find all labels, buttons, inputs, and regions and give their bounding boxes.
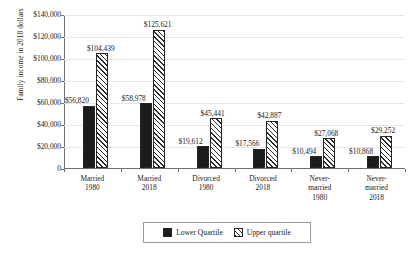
x-axis-tick: [348, 169, 349, 172]
y-axis-tick: [61, 125, 64, 126]
y-axis-label: $20,000: [0, 143, 61, 151]
bar-lower-quartile: [310, 156, 322, 168]
chart-legend: Lower Quartile Upper quartile: [143, 222, 311, 243]
legend-label-lower-quartile: Lower Quartile: [176, 228, 223, 237]
y-axis-label: $80,000: [0, 77, 61, 85]
bar-lower-quartile: [253, 149, 265, 168]
bar-value-label-upper: $45,441: [201, 110, 225, 118]
y-axis-tick: [61, 15, 64, 16]
x-axis-tick: [121, 169, 122, 172]
bar-value-label-upper: $104,439: [87, 45, 115, 53]
bar-group: [83, 14, 108, 168]
y-axis-label: $40,000: [0, 121, 61, 129]
y-axis-tick: [61, 81, 64, 82]
y-axis-label: $120,000: [0, 33, 61, 41]
bar-group: [140, 14, 165, 168]
gridline: [64, 103, 405, 104]
x-axis-tick: [64, 169, 65, 172]
y-axis-tick: [61, 59, 64, 60]
y-axis-label: $140,000: [0, 11, 61, 19]
y-axis-title: Family income in 2018 dollars: [16, 0, 25, 135]
gridline: [64, 37, 405, 38]
bar-upper-quartile: [153, 30, 165, 168]
bar-value-label-lower: $10,494: [292, 148, 316, 156]
bar-value-label-upper: $29,252: [371, 127, 395, 135]
bar-upper-quartile: [210, 118, 222, 168]
hatch-swatch: [234, 228, 243, 237]
y-axis-label: 0: [0, 165, 61, 173]
bar-lower-quartile: [83, 106, 95, 169]
bar-lower-quartile: [367, 156, 379, 168]
legend-item-lower-quartile: Lower Quartile: [163, 228, 223, 237]
x-axis-tick: [178, 169, 179, 172]
x-axis-tick: [235, 169, 236, 172]
y-axis-tick: [61, 37, 64, 38]
y-axis-line: [64, 15, 65, 169]
bar-group: [367, 14, 392, 168]
bar-value-label-lower: $19,612: [179, 138, 203, 146]
y-axis-tick: [61, 103, 64, 104]
bar-value-label-lower: $56,820: [65, 97, 89, 105]
bar-upper-quartile: [266, 121, 278, 168]
bar-lower-quartile: [197, 146, 209, 168]
legend-label-upper-quartile: Upper quartile: [247, 228, 291, 237]
legend-item-upper-quartile: Upper quartile: [234, 228, 291, 237]
x-axis-tick: [405, 169, 406, 172]
bar-value-label-lower: $58,978: [122, 95, 146, 103]
y-axis-label: $60,000: [0, 99, 61, 107]
bar-value-label-lower: $17,566: [235, 140, 259, 148]
bar-value-label-upper: $42,887: [257, 112, 281, 120]
solid-black-swatch: [163, 228, 172, 237]
gridline: [64, 15, 405, 16]
y-axis-label: $100,000: [0, 55, 61, 63]
gridline: [64, 81, 405, 82]
y-axis-tick: [61, 147, 64, 148]
bar-upper-quartile: [96, 53, 108, 168]
bar-value-label-upper: $27,068: [314, 130, 338, 138]
bar-value-label-lower: $10,868: [349, 148, 373, 156]
gridline: [64, 59, 405, 60]
bar-group: [310, 14, 335, 168]
bar-chart: Family income in 2018 dollars Lower Quar…: [0, 0, 417, 254]
bar-value-label-upper: $125,621: [144, 21, 172, 29]
bar-upper-quartile: [380, 136, 392, 168]
gridline: [64, 125, 405, 126]
x-axis-category-label: Never- married 2018: [344, 174, 410, 202]
bar-upper-quartile: [323, 138, 335, 168]
x-axis-tick: [291, 169, 292, 172]
bar-lower-quartile: [140, 103, 152, 168]
